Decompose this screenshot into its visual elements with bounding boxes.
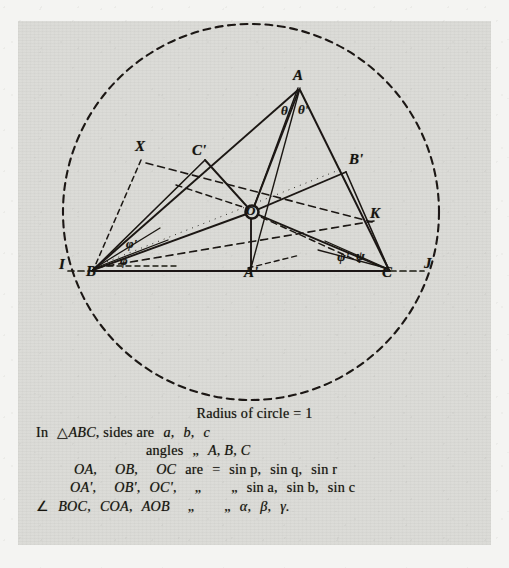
caption-alpha: α,: [240, 498, 251, 514]
caption-sides-word: , sides are: [96, 424, 155, 440]
caption-BOC: BOC,: [58, 498, 91, 514]
caption-line-OA-OB-OC: OA,OB,OCare=sin p,sin q,sin r: [18, 460, 491, 479]
caption-abc: ABC: [68, 424, 95, 440]
point-label-A-prime: A': [244, 265, 258, 280]
caption-ditto-4: „: [188, 498, 195, 514]
angle-label-psi: ψ: [356, 249, 365, 262]
caption-angles-word: angles: [146, 442, 183, 458]
angle-label-theta: θ: [281, 104, 288, 117]
caption-line-angles: angles„A, B, C: [18, 441, 491, 460]
caption-gamma: γ.: [280, 498, 290, 514]
triangle-side-AC: [300, 90, 389, 270]
caption-AOB: AOB: [142, 498, 170, 514]
caption-COA: COA,: [100, 498, 133, 514]
caption-line-sides: In△ABC, sides area,b,c: [18, 423, 491, 442]
caption-ditto-2: „: [195, 479, 202, 495]
caption-sinc: sin c: [328, 479, 355, 495]
caption-side-b: b,: [183, 424, 194, 440]
caption-line-OAp-OBp-OCp: OA',OB',OC',„„sin a,sin b,sin c: [18, 478, 491, 497]
segment-Cprime-to-B: [93, 160, 205, 270]
segment-O-to-B: [93, 212, 252, 270]
caption-sinb: sin b,: [287, 479, 319, 495]
caption-sina: sin a,: [247, 479, 278, 495]
triangle-side-AB: [93, 90, 298, 270]
caption-angles-vals: A, B, C: [208, 442, 250, 458]
ray-A-to-Aprime: [251, 88, 300, 268]
caption-sinq: sin q,: [270, 461, 302, 477]
point-label-A: A: [293, 68, 303, 83]
caption-side-c: c: [203, 424, 210, 440]
ray-A-to-O-left: [252, 88, 298, 212]
segment-O-to-Cprime: [205, 160, 252, 212]
caption-OB-prime: OB',: [114, 479, 140, 495]
point-label-B-prime: B': [349, 152, 363, 167]
caption-line-radius: Radius of circle = 1: [18, 404, 491, 423]
caption-in-word: In: [36, 424, 48, 440]
caption-side-a: a,: [163, 424, 174, 440]
caption-beta: β,: [260, 498, 271, 514]
dashed-left-of-O: [176, 185, 246, 208]
caption-ditto-1: „: [192, 442, 199, 458]
caption-are-word: are: [185, 461, 203, 477]
caption-OA-prime: OA',: [70, 479, 96, 495]
caption-sinp: sin p,: [229, 461, 261, 477]
point-label-J: J: [424, 256, 432, 271]
triangle-symbol-icon: △: [57, 424, 68, 440]
caption-ditto-5: „: [224, 498, 231, 514]
point-label-I: I: [59, 257, 65, 272]
caption-OB: OB,: [115, 461, 138, 477]
caption-ditto-3: „: [231, 479, 238, 495]
figure-caption: Radius of circle = 1 In△ABC, sides area,…: [18, 404, 491, 516]
point-label-C-prime: C': [192, 143, 206, 158]
caption-OC-prime: OC',: [150, 479, 177, 495]
point-label-K: K: [370, 206, 380, 221]
point-label-X: X: [135, 139, 145, 154]
angle-label-theta-prime: θ': [298, 103, 308, 116]
angle-label-psi-prime: ψ': [337, 250, 349, 263]
caption-sinr: sin r: [311, 461, 337, 477]
point-label-C: C: [382, 265, 392, 280]
caption-equals-1: =: [212, 461, 220, 477]
angle-symbol-icon: ∠: [36, 498, 49, 514]
caption-line-angles-BOC: ∠BOC,COA,AOB„„α,β,γ.: [18, 497, 491, 516]
caption-OA: OA,: [74, 461, 97, 477]
point-label-O: O: [246, 204, 255, 217]
angle-label-phi-prime: φ': [126, 237, 137, 250]
point-label-B: B: [86, 264, 96, 279]
caption-radius-text: Radius of circle = 1: [196, 405, 312, 421]
angle-label-phi: φ: [120, 254, 128, 267]
figure-page: A B C A' B' C' O X K I J θ θ' φ' φ ψ' ψ …: [0, 0, 509, 568]
caption-OC: OC: [156, 461, 176, 477]
